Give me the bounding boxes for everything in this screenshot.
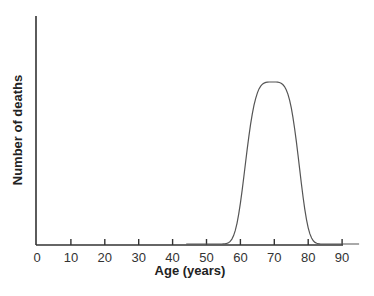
x-tick-label: 80 <box>301 250 315 265</box>
x-tick-label: 30 <box>131 250 145 265</box>
x-tick-label: 0 <box>33 250 40 265</box>
x-tick-label: 60 <box>233 250 247 265</box>
x-tick-label: 70 <box>267 250 281 265</box>
y-axis-title: Number of deaths <box>10 75 25 186</box>
x-tick-label: 20 <box>98 250 112 265</box>
x-axis-title: Age (years) <box>155 263 226 278</box>
x-tick-label: 10 <box>64 250 78 265</box>
deaths-curve <box>186 82 359 244</box>
x-tick-label: 90 <box>335 250 349 265</box>
chart: 0102030405060708090 Age (years) Number o… <box>0 0 374 296</box>
